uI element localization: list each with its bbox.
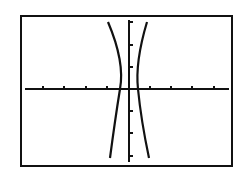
graph-svg (0, 0, 240, 171)
window-frame (21, 16, 232, 166)
graph-screen: Graphing calculator window showing a hyp… (0, 0, 240, 171)
